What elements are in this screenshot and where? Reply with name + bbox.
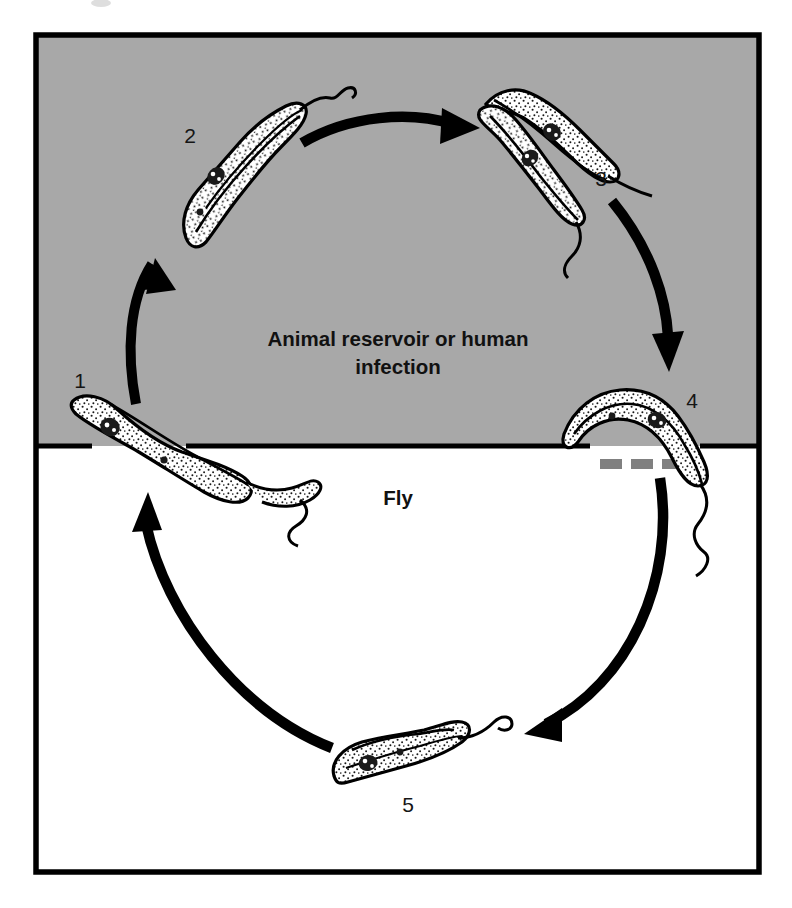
gray-dashed-separator bbox=[600, 459, 684, 469]
stage-number-1: 1 bbox=[74, 369, 86, 392]
stage-number-4: 4 bbox=[686, 389, 698, 412]
scan-artifact bbox=[91, 0, 111, 7]
animal-reservoir-zone-background bbox=[34, 33, 761, 446]
life-cycle-canvas: Animal reservoir or human infection Fly bbox=[0, 0, 792, 908]
stage-number-2: 2 bbox=[184, 124, 196, 147]
animal-reservoir-label-line2: infection bbox=[355, 355, 440, 378]
animal-reservoir-label-line1: Animal reservoir or human bbox=[268, 327, 529, 350]
life-cycle-figure: Animal reservoir or human infection Fly bbox=[0, 0, 792, 908]
fly-label: Fly bbox=[383, 486, 413, 509]
stage-number-3: 3 bbox=[595, 167, 607, 190]
stage-number-5: 5 bbox=[402, 793, 414, 816]
